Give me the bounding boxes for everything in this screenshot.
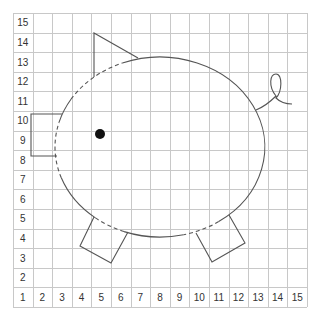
- row-label: 15: [17, 17, 29, 28]
- row-label: 2: [20, 272, 26, 283]
- column-label: 10: [194, 292, 206, 303]
- row-label: 7: [20, 174, 26, 185]
- column-label: 11: [214, 292, 225, 303]
- pig-eye: [95, 129, 105, 139]
- column-label: 4: [79, 292, 85, 303]
- row-label: 13: [17, 57, 29, 68]
- row-label: 6: [20, 194, 26, 205]
- column-label: 15: [292, 292, 304, 303]
- row-label: 9: [20, 135, 26, 146]
- row-label: 5: [20, 213, 26, 224]
- column-label: 5: [98, 292, 104, 303]
- pig-body: [59, 57, 265, 237]
- pig: [31, 33, 292, 263]
- column-label: 6: [118, 292, 124, 303]
- row-label: 10: [17, 115, 29, 126]
- pig-front-leg: [80, 217, 128, 263]
- column-labels: 23456789101112131415: [40, 292, 304, 303]
- column-label: 7: [138, 292, 144, 303]
- column-label: 3: [59, 292, 65, 303]
- pig-grid-drawing: 151413121110987654321 234567891011121314…: [0, 0, 321, 315]
- pig-body-hidden-ear-edge: [71, 63, 122, 99]
- pig-snout: [31, 114, 62, 156]
- row-label: 4: [20, 233, 26, 244]
- row-label: 3: [20, 253, 26, 264]
- row-label: 12: [17, 76, 29, 87]
- column-label: 14: [272, 292, 284, 303]
- column-label: 12: [233, 292, 245, 303]
- column-label: 9: [177, 292, 183, 303]
- row-labels: 151413121110987654321: [17, 17, 29, 302]
- column-label: 2: [40, 292, 46, 303]
- pig-body-hidden-back-leg-edge: [184, 222, 219, 235]
- row-label: 11: [18, 96, 29, 107]
- row-label: 8: [20, 155, 26, 166]
- column-label: 13: [252, 292, 264, 303]
- row-label: 1: [20, 292, 26, 303]
- column-label: 8: [157, 292, 163, 303]
- row-label: 14: [17, 37, 29, 48]
- pig-back-leg: [196, 215, 245, 262]
